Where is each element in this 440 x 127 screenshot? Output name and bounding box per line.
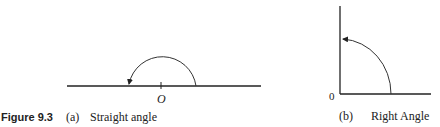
- origin-label-b: 0: [329, 90, 335, 102]
- origin-label-a: O: [157, 92, 166, 107]
- right-angle-arc: [343, 39, 391, 94]
- panel-a-tag: (a): [66, 110, 79, 125]
- straight-angle-arc: [129, 57, 196, 86]
- right-angle-diagram: [340, 6, 431, 94]
- panel-b-tag: (b): [339, 109, 353, 124]
- panel-b-caption: Right Angle: [371, 109, 429, 124]
- figure-number: Figure 9.3: [1, 111, 53, 123]
- straight-angle-diagram: [67, 57, 261, 89]
- figure-canvas: [0, 0, 440, 127]
- panel-a-caption: Straight angle: [90, 110, 157, 125]
